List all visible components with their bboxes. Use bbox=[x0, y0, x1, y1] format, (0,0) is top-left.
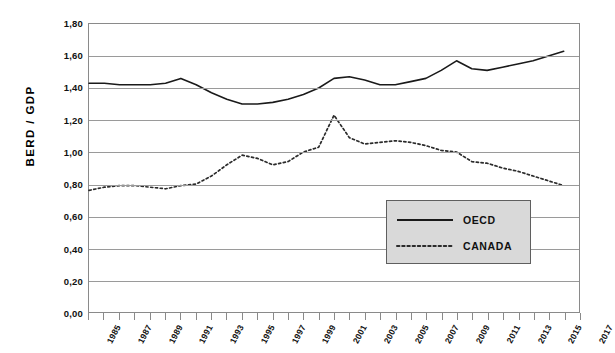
gridline bbox=[89, 88, 579, 89]
gridline bbox=[89, 152, 579, 153]
x-axis-tick-mark bbox=[503, 313, 504, 320]
gridline bbox=[89, 185, 579, 186]
y-axis-tick-label: 0,20 bbox=[37, 275, 83, 286]
x-axis-tick-label: 1989 bbox=[166, 323, 184, 345]
x-axis-tick-mark bbox=[119, 313, 120, 320]
x-axis-tick-mark bbox=[396, 313, 397, 320]
y-axis-tick-label: 0,40 bbox=[37, 243, 83, 254]
x-axis-tick-mark bbox=[380, 313, 381, 320]
x-axis-tick-mark bbox=[303, 313, 304, 320]
x-axis-tick-mark bbox=[411, 313, 412, 320]
x-axis-tick-label: 2003 bbox=[381, 323, 399, 345]
x-axis-tick-mark bbox=[365, 313, 366, 320]
x-axis-tick-mark bbox=[103, 313, 104, 320]
legend-item-canada: CANADA bbox=[395, 237, 524, 255]
y-axis-tick-labels: 0,000,200,400,600,801,001,201,401,601,80 bbox=[33, 0, 83, 353]
x-axis-tick-mark bbox=[150, 313, 151, 320]
gridline bbox=[89, 56, 579, 57]
x-axis-tick-mark bbox=[257, 313, 258, 320]
x-axis-tick-label: 2017 bbox=[597, 323, 615, 345]
y-axis-tick-label: 0,00 bbox=[37, 308, 83, 319]
x-axis-tick-mark bbox=[534, 313, 535, 320]
y-axis-tick-label: 1,00 bbox=[37, 146, 83, 157]
x-axis-tick-label: 2013 bbox=[535, 323, 553, 345]
x-axis-tick-mark bbox=[519, 313, 520, 320]
x-axis-tick-label: 1985 bbox=[105, 323, 123, 345]
legend-line-solid-icon bbox=[395, 215, 455, 225]
legend-label-canada: CANADA bbox=[463, 240, 512, 252]
x-axis-tick-label: 1997 bbox=[289, 323, 307, 345]
x-axis-tick-label: 1993 bbox=[228, 323, 246, 345]
x-axis-tick-mark bbox=[226, 313, 227, 320]
x-axis-tick-mark bbox=[88, 313, 89, 320]
legend-label-oecd: OECD bbox=[463, 214, 496, 226]
x-axis-tick-mark bbox=[165, 313, 166, 320]
legend: OECD CANADA bbox=[386, 200, 531, 264]
gridline bbox=[89, 120, 579, 121]
x-axis-tick-mark bbox=[457, 313, 458, 320]
x-axis-tick-mark bbox=[488, 313, 489, 320]
series-line-oecd bbox=[89, 51, 564, 104]
x-axis-tick-label: 2009 bbox=[474, 323, 492, 345]
x-axis-tick-label: 2001 bbox=[351, 323, 369, 345]
x-axis-tick-mark bbox=[288, 313, 289, 320]
x-axis-tick-labels: 1985198719891991199319951997199920012003… bbox=[88, 313, 581, 353]
legend-line-dotted-icon bbox=[395, 241, 455, 251]
plot-area bbox=[88, 23, 580, 313]
x-axis-tick-mark bbox=[426, 313, 427, 320]
y-axis-tick-label: 0,60 bbox=[37, 211, 83, 222]
x-axis-tick-label: 1987 bbox=[135, 323, 153, 345]
legend-item-oecd: OECD bbox=[395, 211, 524, 229]
x-axis-tick-label: 2015 bbox=[566, 323, 584, 345]
series-layer bbox=[89, 24, 579, 312]
x-axis-tick-label: 1995 bbox=[258, 323, 276, 345]
y-axis-tick-label: 1,80 bbox=[37, 18, 83, 29]
x-axis-tick-label: 2011 bbox=[504, 323, 522, 345]
y-axis-tick-label: 1,40 bbox=[37, 82, 83, 93]
x-axis-tick-mark bbox=[134, 313, 135, 320]
x-axis-tick-label: 1991 bbox=[197, 323, 215, 345]
x-axis-tick-mark bbox=[273, 313, 274, 320]
x-axis-tick-label: 1999 bbox=[320, 323, 338, 345]
x-axis-tick-mark bbox=[442, 313, 443, 320]
x-axis-tick-mark bbox=[319, 313, 320, 320]
x-axis-tick-mark bbox=[549, 313, 550, 320]
x-axis-tick-mark bbox=[196, 313, 197, 320]
x-axis-tick-mark bbox=[211, 313, 212, 320]
x-axis-tick-label: 2007 bbox=[443, 323, 461, 345]
x-axis-tick-mark bbox=[242, 313, 243, 320]
x-axis-tick-mark bbox=[472, 313, 473, 320]
x-axis-tick-mark bbox=[580, 313, 581, 320]
x-axis-tick-mark bbox=[180, 313, 181, 320]
y-axis-tick-label: 1,20 bbox=[37, 114, 83, 125]
x-axis-tick-mark bbox=[334, 313, 335, 320]
y-axis-tick-label: 1,60 bbox=[37, 50, 83, 61]
x-axis-tick-label: 2005 bbox=[412, 323, 430, 345]
y-axis-tick-label: 0,80 bbox=[37, 179, 83, 190]
x-axis-tick-mark bbox=[349, 313, 350, 320]
x-axis-tick-mark bbox=[565, 313, 566, 320]
gridline bbox=[89, 281, 579, 282]
